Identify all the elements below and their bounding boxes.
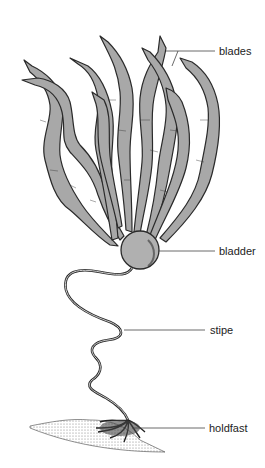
kelp-diagram	[0, 0, 265, 468]
label-stipe: stipe	[210, 324, 233, 336]
stipe-illustration	[65, 268, 132, 420]
label-blades: blades	[219, 45, 251, 57]
label-holdfast: holdfast	[209, 422, 248, 434]
rock-illustration	[30, 419, 165, 452]
blades-illustration	[22, 36, 220, 246]
label-bladder: bladder	[219, 245, 256, 257]
